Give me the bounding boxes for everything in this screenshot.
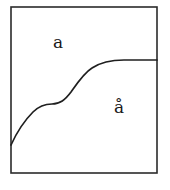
figure-container: a å: [0, 0, 170, 190]
figure-frame-border: [11, 7, 157, 173]
lower-region-label: å: [114, 97, 124, 117]
upper-region-label: a: [53, 32, 63, 52]
figure-canvas: a å: [0, 0, 170, 190]
